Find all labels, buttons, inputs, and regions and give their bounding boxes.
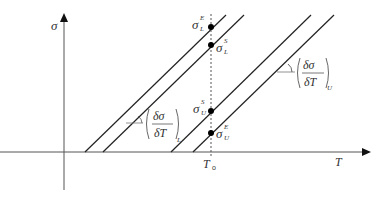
to-tick-subscript: o xyxy=(212,164,216,171)
point-sigma-L-S xyxy=(208,42,214,48)
label-sigma-L-S-sub: L xyxy=(223,48,228,56)
label-sigma-L-S-sup: S xyxy=(224,37,228,45)
slope-upper-den: δT xyxy=(304,75,318,89)
label-sigma-L-S: σ xyxy=(216,40,223,55)
diagram-canvas: σ T T o σ E L σ S L σ S U σ E U δσ δT L … xyxy=(0,0,380,198)
slope-lower-den: δT xyxy=(154,126,168,140)
y-axis-arrow-icon xyxy=(60,13,68,22)
x-axis-arrow-icon xyxy=(362,148,371,156)
label-sigma-U-S-sup: S xyxy=(201,98,205,106)
y-axis-label: σ xyxy=(51,18,58,33)
line-upper-1 xyxy=(171,15,311,152)
point-sigma-U-S xyxy=(208,108,214,114)
slope-lower-annotation: δσ δT L xyxy=(126,109,181,144)
line-lower-2 xyxy=(103,15,244,152)
label-sigma-U-E: σ xyxy=(216,126,223,141)
label-sigma-U-E-sub: U xyxy=(224,134,230,142)
label-sigma-U-S: σ xyxy=(193,101,200,116)
slope-upper-sub: U xyxy=(327,84,333,92)
slope-upper-num: δσ xyxy=(303,58,316,72)
point-sigma-U-E xyxy=(208,130,214,136)
slope-lower-sub: L xyxy=(176,136,181,144)
x-axis-label: T xyxy=(335,155,343,169)
label-sigma-L-E-sub: L xyxy=(199,25,204,33)
slope-lower-num: δσ xyxy=(153,109,166,123)
label-sigma-U-E-sup: E xyxy=(223,123,229,131)
stress-temperature-diagram: σ T T o σ E L σ S L σ S U σ E U δσ δT L … xyxy=(0,0,380,198)
slope-upper-annotation: δσ δT U xyxy=(277,58,333,92)
point-sigma-L-E xyxy=(208,24,214,30)
label-sigma-U-S-sub: U xyxy=(201,109,207,117)
label-sigma-L-E: σ xyxy=(192,17,199,32)
to-tick-label: T xyxy=(203,157,211,171)
label-sigma-L-E-sup: E xyxy=(199,14,205,22)
